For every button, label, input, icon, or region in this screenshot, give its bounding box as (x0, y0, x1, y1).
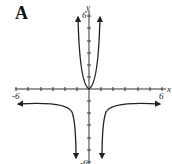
y-min-label: -6 (80, 158, 88, 164)
x-max-label: 6 (159, 91, 164, 101)
y-max-label: 6 (82, 10, 87, 20)
x-min-label: -6 (12, 91, 20, 101)
graph: y 6 -6 6 x -6 (0, 0, 172, 164)
left-branch-curve (18, 103, 76, 158)
right-branch-curve (102, 103, 160, 158)
x-axis-label: x (166, 84, 171, 94)
